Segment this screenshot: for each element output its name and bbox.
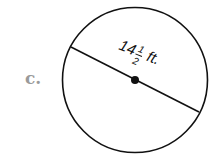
diameter-label: 14 1 2 ft. <box>114 36 162 74</box>
circle-diagram: 14 1 2 ft. <box>0 0 219 158</box>
center-point <box>131 76 139 84</box>
diameter-unit: ft. <box>145 47 163 67</box>
diameter-numerator: 1 <box>137 43 146 55</box>
